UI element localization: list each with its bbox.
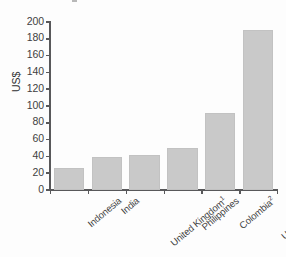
y-tick-label: 180 bbox=[27, 31, 44, 44]
x-label-colombia: Colombia2 bbox=[237, 195, 277, 231]
x-tick-mark bbox=[50, 190, 51, 194]
x-tick-mark bbox=[88, 190, 89, 194]
y-axis-title: US$ bbox=[10, 72, 22, 92]
y-tick-label: 20 bbox=[33, 166, 44, 179]
x-tick-mark bbox=[277, 190, 278, 194]
x-label-india: India bbox=[118, 195, 140, 216]
x-label-indonesia: Indonesia bbox=[85, 195, 123, 229]
y-tick-label: 40 bbox=[33, 149, 44, 162]
x-label-text: United States bbox=[279, 197, 286, 241]
bar-colombia bbox=[205, 113, 235, 190]
x-tick-mark bbox=[164, 190, 165, 194]
y-tick-label: 140 bbox=[27, 65, 44, 78]
x-label-text: India bbox=[118, 195, 140, 216]
x-label-text: Indonesia bbox=[85, 195, 123, 229]
bar-indonesia bbox=[54, 168, 84, 190]
clipped-artifact bbox=[72, 0, 77, 2]
x-label-text: Colombia bbox=[237, 197, 274, 231]
y-tick-label: 60 bbox=[33, 132, 44, 145]
y-tick-label: 160 bbox=[27, 48, 44, 61]
x-tick-mark bbox=[201, 190, 202, 194]
y-tick-label: 100 bbox=[27, 99, 44, 112]
x-tick-mark bbox=[239, 190, 240, 194]
y-tick-label: 80 bbox=[33, 115, 44, 128]
bar-philippines bbox=[167, 148, 197, 190]
x-label-united-kingdom: United Kingdom1 bbox=[168, 195, 228, 248]
y-tick-label: 200 bbox=[27, 15, 44, 28]
plot-area bbox=[50, 22, 277, 190]
y-tick-label: 120 bbox=[27, 82, 44, 95]
bar-united-kingdom bbox=[129, 155, 159, 190]
bar-chart-figure: US$ 020406080100120140160180200 Indonesi… bbox=[0, 0, 286, 257]
y-tick-label: 0 bbox=[38, 183, 44, 196]
bar-india bbox=[92, 157, 122, 190]
x-tick-mark bbox=[126, 190, 127, 194]
x-label-united-states: United States3 bbox=[279, 195, 286, 241]
bar-united-states bbox=[243, 30, 273, 190]
